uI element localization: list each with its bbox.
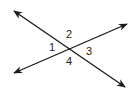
angle-label-2: 2	[66, 29, 72, 40]
lines-canvas	[0, 0, 131, 91]
angle-label-3: 3	[86, 46, 92, 57]
intersecting-lines-diagram: 1 2 3 4	[0, 0, 131, 91]
angle-label-1: 1	[49, 42, 55, 53]
angle-label-4: 4	[66, 56, 72, 67]
